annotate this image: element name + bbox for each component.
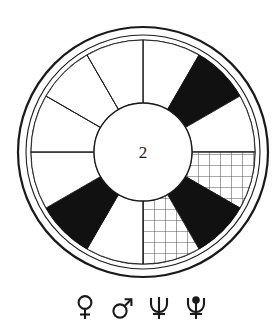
neptune-symbol [147,293,171,321]
figure-root: 2 [0,0,280,329]
sector-wheel-diagram: 2 [0,0,280,329]
pluto-symbol [184,293,208,321]
mars-symbol [110,293,134,321]
center-label: 2 [139,143,148,162]
venus-symbol [73,293,97,321]
planet-symbol-legend [0,289,280,325]
